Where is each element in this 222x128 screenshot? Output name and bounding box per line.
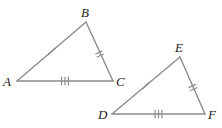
vertex-label-d: D [97,107,108,122]
vertex-label-e: E [174,40,183,55]
tick-marks-side-ab [48,48,55,55]
geometry-figure: A B C D E F [0,0,222,128]
vertex-label-b: B [81,5,89,20]
vertex-label-c: C [116,74,125,89]
geometry-canvas: A B C D E F [0,0,222,128]
triangle-abc: A B C [2,5,125,89]
vertex-label-f: F [207,107,217,122]
vertex-label-a: A [2,74,11,89]
side-bc [86,22,113,81]
triangle-def: D E F [97,40,217,122]
tick-marks-side-de [142,82,149,89]
